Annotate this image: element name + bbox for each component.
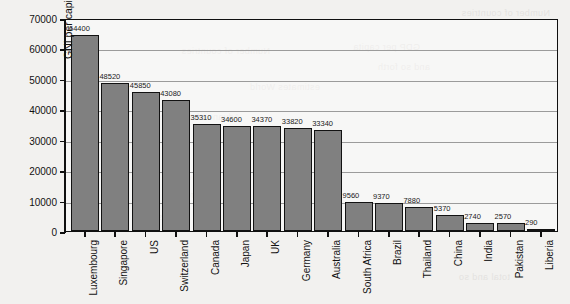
plot-area: 6440048520458504308035310346003437033820… xyxy=(64,19,558,232)
y-tick-mark xyxy=(60,19,65,21)
bar-value-label: 33340 xyxy=(312,119,333,128)
bar-slot: 5370 xyxy=(436,18,464,231)
x-tick-label: UK xyxy=(270,240,281,254)
bar-value-label: 290 xyxy=(525,218,538,227)
bar-slot: 43080 xyxy=(162,18,190,231)
x-tick-mark xyxy=(236,232,238,237)
x-tick-mark xyxy=(84,232,86,237)
y-tick-mark xyxy=(60,232,65,234)
bar-slot: 33820 xyxy=(284,18,312,231)
x-tick-mark xyxy=(266,232,268,237)
bar-slot: 48520 xyxy=(101,18,129,231)
x-tick-mark xyxy=(510,232,512,237)
x-tick-label: Switzerland xyxy=(179,240,190,292)
x-tick-mark xyxy=(114,232,116,237)
x-tick-label: US xyxy=(149,240,160,254)
bar-series: 6440048520458504308035310346003437033820… xyxy=(65,20,557,231)
bar-slot: 9370 xyxy=(375,18,403,231)
y-tick-mark xyxy=(60,141,65,143)
y-axis: GNI per capita PPP (in US$) 700006000050… xyxy=(64,19,66,233)
x-tick-label: Germany xyxy=(301,240,312,281)
bar-slot: 2740 xyxy=(466,18,494,231)
y-tick-mark xyxy=(60,171,65,173)
y-tick-label: 60000 xyxy=(29,44,57,55)
x-tick-label: South Africa xyxy=(362,240,373,294)
bar[interactable] xyxy=(527,229,555,231)
bar[interactable] xyxy=(466,223,494,231)
bar[interactable] xyxy=(253,126,281,231)
bar-slot: 290 xyxy=(527,18,555,231)
bar-value-label: 9560 xyxy=(343,191,360,200)
bar[interactable] xyxy=(223,126,251,231)
x-tick-label: China xyxy=(453,240,464,266)
bar-value-label: 5370 xyxy=(434,204,451,213)
bar[interactable] xyxy=(405,207,433,231)
bar[interactable] xyxy=(162,100,190,231)
x-tick-label: Thailand xyxy=(422,240,433,278)
y-tick-label: 50000 xyxy=(29,74,57,85)
bar-value-label: 45850 xyxy=(130,81,151,90)
bar-slot: 9560 xyxy=(345,18,373,231)
x-tick-label: Australia xyxy=(331,240,342,279)
x-tick-label: Brazil xyxy=(392,240,403,265)
bar[interactable] xyxy=(193,124,221,231)
bar-value-label: 43080 xyxy=(160,89,181,98)
y-tick-mark xyxy=(60,110,65,112)
bar[interactable] xyxy=(314,130,342,231)
bar-slot: 34600 xyxy=(223,18,251,231)
x-tick-label: Liberia xyxy=(544,240,555,270)
x-tick-mark xyxy=(479,232,481,237)
x-tick-label: Canada xyxy=(210,240,221,275)
bar-value-label: 48520 xyxy=(99,72,120,81)
bar-slot: 35310 xyxy=(193,18,221,231)
x-tick-mark xyxy=(327,232,329,237)
x-tick-mark xyxy=(358,232,360,237)
bar-slot: 33340 xyxy=(314,18,342,231)
bar-slot: 64400 xyxy=(71,18,99,231)
x-tick-mark xyxy=(449,232,451,237)
y-tick-label: 70000 xyxy=(29,14,57,25)
bar-chart: 6440048520458504308035310346003437033820… xyxy=(0,0,570,304)
y-tick-mark xyxy=(60,49,65,51)
bar[interactable] xyxy=(284,128,312,231)
y-tick-label: 40000 xyxy=(29,105,57,116)
x-tick-mark xyxy=(297,232,299,237)
x-tick-label: Japan xyxy=(240,240,251,267)
x-tick-label: India xyxy=(483,240,494,262)
bar[interactable] xyxy=(132,92,160,232)
bar-slot: 45850 xyxy=(132,18,160,231)
y-tick-label: 0 xyxy=(51,227,57,238)
x-tick-mark xyxy=(145,232,147,237)
bar[interactable] xyxy=(497,223,525,231)
bar-slot: 2570 xyxy=(497,18,525,231)
bar[interactable] xyxy=(345,202,373,231)
bar[interactable] xyxy=(436,215,464,231)
y-tick-label: 10000 xyxy=(29,196,57,207)
bar-value-label: 2570 xyxy=(495,212,512,221)
bar[interactable] xyxy=(71,35,99,231)
x-tick-mark xyxy=(206,232,208,237)
bar-value-label: 9370 xyxy=(373,192,390,201)
bar-value-label: 35310 xyxy=(191,113,212,122)
x-tick-mark xyxy=(540,232,542,237)
y-tick-mark xyxy=(60,80,65,82)
x-tick-label: Pakistan xyxy=(514,240,525,278)
x-tick-label: Luxembourg xyxy=(88,240,99,296)
x-tick-label: Singapore xyxy=(118,240,129,286)
bar-value-label: 33820 xyxy=(282,117,303,126)
bar-value-label: 7880 xyxy=(403,196,420,205)
bar[interactable] xyxy=(101,83,129,231)
bar-slot: 34370 xyxy=(253,18,281,231)
bar-value-label: 2740 xyxy=(464,212,481,221)
y-tick-label: 30000 xyxy=(29,135,57,146)
y-tick-label: 20000 xyxy=(29,166,57,177)
x-tick-mark xyxy=(388,232,390,237)
bar-value-label: 34370 xyxy=(251,115,272,124)
x-tick-mark xyxy=(175,232,177,237)
x-tick-mark xyxy=(418,232,420,237)
bar-slot: 7880 xyxy=(405,18,433,231)
bar[interactable] xyxy=(375,203,403,232)
y-tick-mark xyxy=(60,202,65,204)
bar-value-label: 34600 xyxy=(221,115,242,124)
